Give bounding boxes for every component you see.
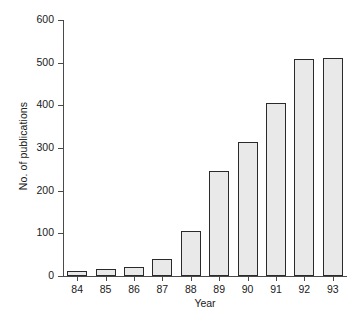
- x-axis-tick-label: 92: [290, 283, 318, 295]
- y-axis-title: No. of publications: [17, 61, 29, 231]
- bar-group: 90: [233, 20, 261, 276]
- bar: [181, 231, 201, 276]
- bar: [67, 271, 87, 276]
- publications-bar-chart: No. of publications 0100200300400500600 …: [0, 0, 361, 322]
- x-axis-tick: [248, 277, 249, 281]
- x-axis-tick: [333, 277, 334, 281]
- y-axis-tick: 0: [58, 276, 63, 277]
- y-axis-tick-label: 200: [36, 184, 54, 196]
- bar: [152, 259, 172, 276]
- x-axis-tick-label: 85: [91, 283, 119, 295]
- bar-group: 85: [91, 20, 119, 276]
- x-axis-tick: [219, 277, 220, 281]
- x-axis-tick-label: 90: [233, 283, 261, 295]
- x-axis-tick: [162, 277, 163, 281]
- bar-group: 91: [262, 20, 290, 276]
- bar-group: 86: [120, 20, 148, 276]
- bar: [323, 58, 343, 276]
- bar-group: 87: [148, 20, 176, 276]
- bar-group: 89: [205, 20, 233, 276]
- x-axis-tick-label: 86: [120, 283, 148, 295]
- x-axis-tick: [106, 277, 107, 281]
- y-axis-tick-label: 400: [36, 98, 54, 110]
- bar: [294, 59, 314, 276]
- x-axis-tick: [191, 277, 192, 281]
- y-axis-tick-label: 300: [36, 141, 54, 153]
- bar: [266, 103, 286, 276]
- bar-group: 88: [177, 20, 205, 276]
- plot-area: 0100200300400500600 84858687888990919293: [63, 20, 347, 276]
- bar: [209, 171, 229, 276]
- bar: [238, 142, 258, 276]
- x-axis-tick: [134, 277, 135, 281]
- bar-series: 84858687888990919293: [63, 20, 347, 276]
- y-axis-tick-label: 600: [36, 13, 54, 25]
- x-axis-title: Year: [63, 297, 347, 309]
- y-axis-tick-label: 500: [36, 56, 54, 68]
- bar: [96, 269, 116, 276]
- x-axis-tick-label: 84: [63, 283, 91, 295]
- bar-group: 93: [319, 20, 347, 276]
- x-axis-tick-label: 87: [148, 283, 176, 295]
- y-axis-tick-label: 0: [48, 269, 54, 281]
- x-axis-tick: [276, 277, 277, 281]
- y-axis-tick-label: 100: [36, 226, 54, 238]
- x-axis-tick-label: 93: [319, 283, 347, 295]
- bar-group: 92: [290, 20, 318, 276]
- bar-group: 84: [63, 20, 91, 276]
- bar: [124, 267, 144, 276]
- x-axis-tick-label: 89: [205, 283, 233, 295]
- x-axis-tick: [77, 277, 78, 281]
- x-axis-tick-label: 88: [177, 283, 205, 295]
- x-axis-tick-label: 91: [262, 283, 290, 295]
- x-axis-tick: [304, 277, 305, 281]
